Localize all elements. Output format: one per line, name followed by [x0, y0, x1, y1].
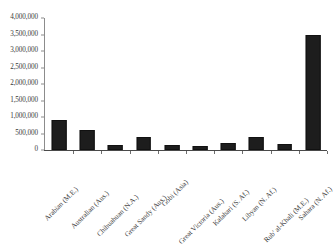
- y-tick-label: 3,500,000: [10, 31, 38, 38]
- bar-slot: [271, 18, 299, 150]
- bar-slot: [214, 18, 242, 150]
- bar-slot: [130, 18, 158, 150]
- plot-area: [45, 18, 327, 150]
- bar-slot: [45, 18, 73, 150]
- x-tick-label: Gobi (Asia): [161, 179, 190, 208]
- bar-slot: [299, 18, 327, 150]
- bar: [136, 137, 151, 150]
- bar-slot: [242, 18, 270, 150]
- x-tick-mark: [299, 151, 300, 154]
- bar: [80, 130, 95, 150]
- bar: [249, 137, 264, 150]
- y-tick-label: 2,000,000: [10, 80, 38, 87]
- x-axis-labels: Arabian (M.E.)Australian (Aus.)Chihuahua…: [0, 150, 330, 224]
- x-tick-mark: [271, 151, 272, 154]
- x-tick-label: Arabian (M.E.): [44, 186, 80, 222]
- y-tick-label: 3,000,000: [10, 47, 38, 54]
- bar: [306, 35, 321, 151]
- y-tick-label: 1,500,000: [10, 97, 38, 104]
- x-tick-mark: [158, 151, 159, 154]
- x-tick-mark: [327, 151, 328, 154]
- x-tick-mark: [186, 151, 187, 154]
- y-tick-label: 500,000: [15, 130, 38, 137]
- x-tick-mark: [73, 151, 74, 154]
- bar-slot: [158, 18, 186, 150]
- bar-slot: [73, 18, 101, 150]
- y-tick-label: 2,500,000: [10, 64, 38, 71]
- bar: [52, 120, 67, 150]
- x-tick-mark: [130, 151, 131, 154]
- bar: [221, 143, 236, 150]
- bar-slot: [101, 18, 129, 150]
- y-tick-label: 1,000,000: [10, 113, 38, 120]
- x-tick-mark: [214, 151, 215, 154]
- y-tick-label: 4,000,000: [10, 14, 38, 21]
- bar-slot: [186, 18, 214, 150]
- x-tick-mark: [101, 151, 102, 154]
- x-tick-mark: [242, 151, 243, 154]
